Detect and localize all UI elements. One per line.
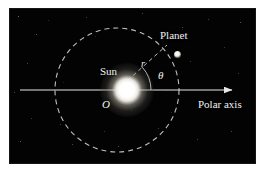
angle-label: θ	[158, 69, 163, 81]
planet-body	[174, 51, 181, 58]
figure-container: Planet Sun Polar axis O r θ	[0, 0, 263, 177]
planet-label: Planet	[160, 29, 188, 41]
angle-arc	[142, 67, 151, 90]
sun-label: Sun	[100, 65, 117, 77]
diagram-vector-layer	[10, 9, 255, 163]
origin-label: O	[102, 98, 110, 110]
radius-label: r	[141, 58, 145, 69]
polar-axis-label: Polar axis	[198, 98, 242, 110]
astronomy-diagram-panel: Planet Sun Polar axis O r θ	[10, 9, 255, 163]
